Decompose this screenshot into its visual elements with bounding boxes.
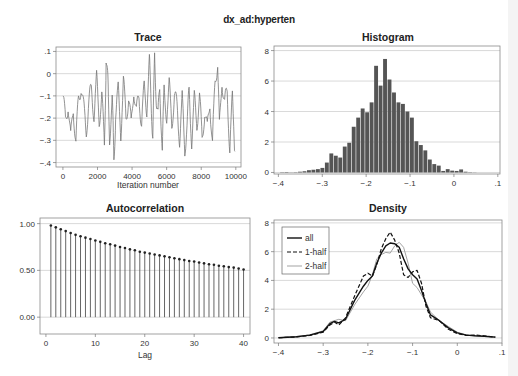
density-legend: all1-half2-half — [282, 227, 329, 274]
acf-marker — [84, 236, 87, 239]
histogram-bar — [459, 169, 463, 172]
x-tick-label: .1 — [499, 348, 506, 357]
acf-marker — [158, 254, 161, 257]
acf-marker — [198, 261, 201, 264]
x-tick-label: −.4 — [273, 348, 285, 357]
trace-title: Trace — [134, 31, 162, 43]
acf-marker — [104, 242, 107, 245]
acf-marker — [193, 260, 196, 263]
y-tick-label: .1 — [44, 47, 51, 56]
histogram-bar — [392, 92, 396, 172]
histogram-frame — [274, 46, 500, 174]
histogram-bar — [464, 172, 468, 173]
acf-marker — [218, 264, 221, 267]
trace-series — [63, 53, 235, 160]
y-tick-label: 4 — [265, 276, 270, 285]
acf-marker — [64, 230, 67, 233]
y-tick-label: 0.50 — [19, 266, 35, 275]
x-tick-label: 8000 — [192, 172, 210, 181]
histogram-bar — [334, 156, 338, 173]
x-tick-label: 20 — [140, 339, 149, 348]
acf-marker — [208, 263, 211, 266]
histogram-title: Histogram — [362, 31, 414, 43]
acf-marker — [237, 267, 240, 270]
y-tick-label: 8 — [265, 47, 270, 56]
histogram-bar — [437, 166, 441, 173]
y-tick-label: −.4 — [40, 159, 52, 168]
y-tick-label: 6 — [265, 248, 270, 257]
x-tick-label: 10 — [91, 339, 100, 348]
acf-marker — [242, 268, 245, 271]
x-tick-label: −.1 — [407, 348, 419, 357]
acf-marker — [213, 263, 216, 266]
histogram-bar — [329, 153, 333, 172]
y-tick-label: 2 — [265, 305, 270, 314]
acf-marker — [59, 228, 62, 231]
x-tick-label: 0 — [452, 179, 457, 188]
x-tick-label: −.4 — [273, 179, 285, 188]
histogram-bar — [320, 168, 324, 173]
y-tick-label: 6 — [265, 77, 270, 86]
histogram-bar — [410, 118, 414, 173]
x-tick-label: .1 — [494, 179, 501, 188]
x-tick-label: 10000 — [225, 172, 248, 181]
trace-xlabel: Iteration number — [117, 180, 179, 190]
histogram-panel: Histogram 02468−.4−.3−.2−.10.1 — [265, 31, 502, 188]
acf-marker — [183, 259, 186, 262]
acf-marker — [163, 255, 166, 258]
histogram-bar — [361, 108, 365, 172]
histogram-bar — [446, 169, 450, 172]
histogram-bar — [343, 147, 347, 173]
histogram-gridlines — [274, 51, 500, 173]
x-tick-label: −.1 — [404, 179, 416, 188]
histogram-bar — [405, 112, 409, 173]
acf-marker — [139, 250, 142, 253]
autocorrelation-panel: Autocorrelation 1.000.500.00010203040 La… — [19, 202, 250, 360]
acf-marker — [69, 232, 72, 235]
acf-marker — [178, 258, 181, 261]
histogram-bar — [356, 118, 360, 173]
y-tick-label: 0 — [265, 168, 270, 177]
histogram-bar — [316, 169, 320, 172]
histogram-bar — [419, 145, 423, 172]
y-tick-label: 2 — [265, 138, 270, 147]
histogram-bar — [388, 80, 392, 173]
histogram-bar — [303, 171, 307, 172]
histogram-bar — [401, 104, 405, 173]
x-tick-label: 40 — [239, 339, 248, 348]
autocorrelation-title: Autocorrelation — [106, 202, 184, 214]
y-tick-label: −.1 — [40, 92, 52, 101]
acf-marker — [79, 235, 82, 238]
histogram-bar — [414, 141, 418, 172]
y-tick-label: 0 — [47, 70, 52, 79]
histogram-bar — [423, 150, 427, 172]
legend-label-all: all — [305, 233, 314, 243]
acf-marker — [223, 265, 226, 268]
x-tick-label: −.3 — [317, 179, 329, 188]
acf-marker — [129, 248, 132, 251]
histogram-bar — [370, 102, 374, 172]
x-tick-label: 2000 — [89, 172, 107, 181]
acf-marker — [134, 249, 137, 252]
acf-marker — [203, 262, 206, 265]
histogram-bar — [455, 171, 459, 173]
histogram-bar — [338, 158, 342, 173]
acf-marker — [99, 241, 102, 244]
density-panel: Density 02468−.4−.3−.2−.10.1 all1-half2-… — [265, 202, 506, 357]
acf-marker — [227, 266, 230, 269]
y-tick-label: 0.00 — [19, 313, 35, 322]
histogram-bar — [325, 163, 329, 173]
histogram-bar — [397, 102, 401, 172]
histogram-bars — [280, 59, 476, 173]
acf-marker — [153, 253, 156, 256]
acf-marker — [143, 251, 146, 254]
acf-marker — [173, 257, 176, 260]
density-title: Density — [369, 202, 407, 214]
y-tick-label: 1.00 — [19, 220, 35, 229]
trace-panel: Trace .10−.1−.2−.3−.40200040006000800010… — [40, 31, 248, 190]
x-tick-label: 0 — [44, 339, 49, 348]
y-tick-label: 4 — [265, 108, 270, 117]
acf-marker — [168, 256, 171, 259]
x-tick-label: −.2 — [362, 348, 374, 357]
histogram-bar — [298, 172, 302, 173]
